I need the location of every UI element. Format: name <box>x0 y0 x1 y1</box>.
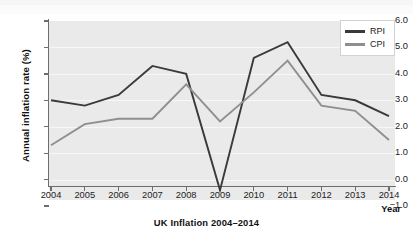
legend-swatch-cpi <box>345 43 365 45</box>
legend-label-rpi: RPI <box>370 27 385 36</box>
chart-figure: Annual inflation rate (%) −1.00.01.02.03… <box>0 0 413 235</box>
chart-title: UK Inflation 2004–2014 <box>0 217 413 228</box>
legend-label-cpi: CPI <box>370 40 385 49</box>
legend-swatch-rpi <box>345 30 365 32</box>
legend: RPI CPI <box>340 20 395 56</box>
x-axis-title: Year <box>381 204 401 214</box>
series-line-rpi <box>51 42 389 190</box>
series-line-cpi <box>51 61 389 146</box>
legend-item-cpi[interactable]: CPI <box>341 38 394 51</box>
legend-item-rpi[interactable]: RPI <box>341 25 394 38</box>
